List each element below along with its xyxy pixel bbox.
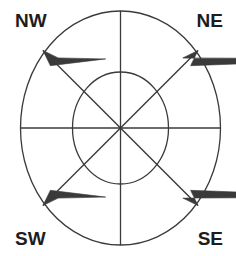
label-northeast: NE (197, 11, 223, 30)
compass-rose-svg (0, 0, 236, 256)
sw-arrow-icon (43, 190, 106, 205)
nw-arrow-icon (43, 50, 106, 65)
compass-diagram: NW NE SW SE (0, 0, 236, 256)
se-arrow-icon (183, 190, 236, 205)
ne-diagonal-line (121, 50, 199, 128)
label-southwest: SW (15, 229, 46, 248)
label-southeast: SE (198, 229, 223, 248)
label-northwest: NW (15, 11, 47, 30)
ne-arrow-icon (183, 50, 236, 65)
se-diagonal-line (121, 128, 199, 206)
